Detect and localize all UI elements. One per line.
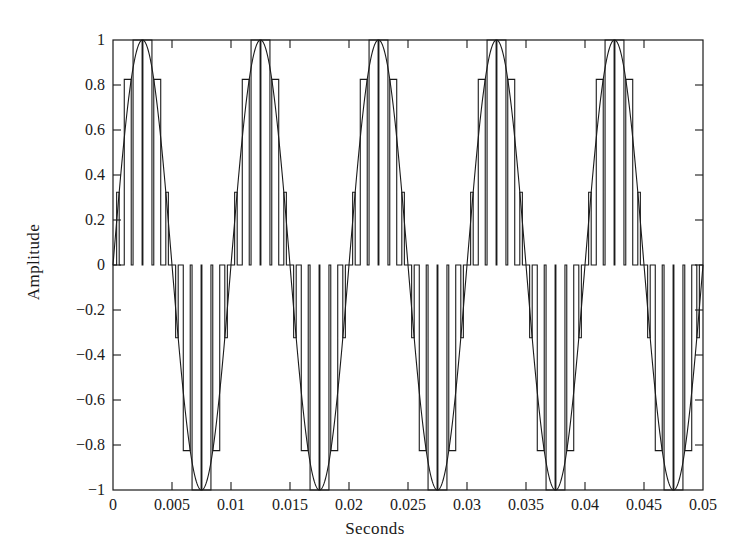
y-tick-label: −1 xyxy=(0,481,105,499)
x-tick-label: 0.015 xyxy=(272,496,308,514)
x-tick-label: 0.05 xyxy=(689,496,717,514)
y-tick-label: 0.4 xyxy=(0,166,105,184)
y-tick-label: 0.8 xyxy=(0,76,105,94)
x-tick-label: 0.02 xyxy=(335,496,363,514)
y-tick-label: −0.4 xyxy=(0,346,105,364)
y-tick-label: 0.2 xyxy=(0,211,105,229)
y-tick-label: 0 xyxy=(0,256,105,274)
x-tick-label: 0.04 xyxy=(571,496,599,514)
x-tick-label: 0.01 xyxy=(217,496,245,514)
y-tick-label: −0.6 xyxy=(0,391,105,409)
chart-figure: 00.0050.010.0150.020.0250.030.0350.040.0… xyxy=(0,0,750,559)
y-tick-label: −0.2 xyxy=(0,301,105,319)
y-tick-label: 1 xyxy=(0,31,105,49)
chart-plot-area xyxy=(0,0,750,559)
x-axis-title: Seconds xyxy=(0,519,750,539)
x-tick-label: 0.045 xyxy=(626,496,662,514)
x-tick-label: 0.03 xyxy=(453,496,481,514)
x-tick-label: 0 xyxy=(109,496,117,514)
y-tick-label: −0.8 xyxy=(0,436,105,454)
x-tick-label: 0.035 xyxy=(508,496,544,514)
x-tick-label: 0.025 xyxy=(390,496,426,514)
y-axis-title: Amplitude xyxy=(24,202,44,322)
y-tick-label: 0.6 xyxy=(0,121,105,139)
x-tick-label: 0.005 xyxy=(154,496,190,514)
